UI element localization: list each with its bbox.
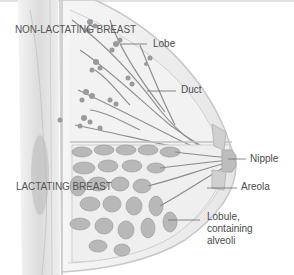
breast-anatomy-diagram: NON-LACTATING BREAST LACTATING BREAST Lo… (0, 0, 294, 275)
lactating-tissue (70, 145, 230, 262)
label-areola: Areola (241, 181, 270, 193)
section-label-lactating: LACTATING BREAST (16, 181, 112, 193)
label-lobule: Lobule, containing alveoli (207, 211, 257, 247)
label-duct: Duct (181, 84, 202, 96)
section-label-non-lactating: NON-LACTATING BREAST (15, 24, 136, 36)
label-nipple: Nipple (250, 153, 278, 165)
chest-wall (18, 0, 62, 275)
label-lobe: Lobe (153, 38, 175, 50)
